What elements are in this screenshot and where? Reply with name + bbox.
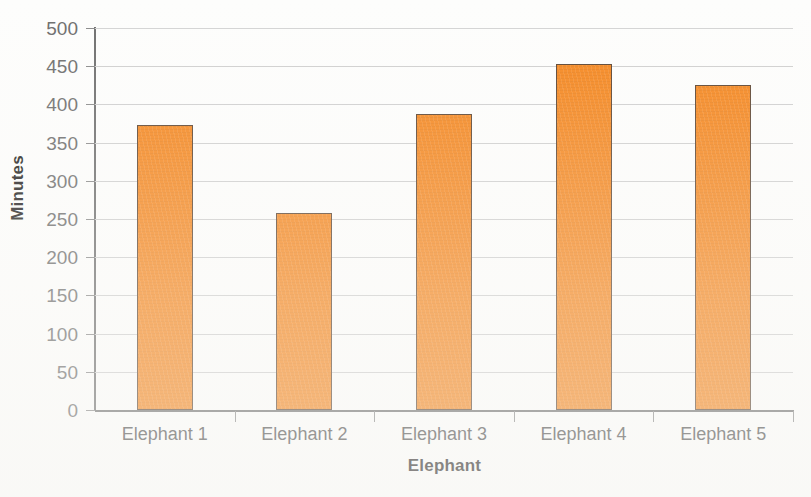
y-axis-tick-label: 150: [0, 286, 86, 305]
y-axis-tick-label: 100: [0, 324, 86, 343]
y-axis-tick-label: 350: [0, 133, 86, 152]
gridline: [95, 104, 793, 105]
x-axis-tick-mark: [653, 411, 654, 422]
y-axis-tick-label: 500: [0, 19, 86, 38]
bar-4: [556, 64, 612, 410]
x-axis-line: [95, 410, 794, 412]
y-axis-tick-mark: [86, 66, 95, 67]
y-axis-tick-label: 450: [0, 57, 86, 76]
x-axis-tick-label: Elephant 4: [541, 424, 627, 445]
y-axis-tick-mark: [86, 181, 95, 182]
y-axis-tick-label: 0: [0, 401, 86, 420]
y-axis-tick-labels: 050100150200250300350400450500: [0, 0, 86, 497]
y-axis-tick-mark: [86, 372, 95, 373]
bar-5: [695, 85, 751, 410]
y-axis-tick-mark: [86, 257, 95, 258]
x-axis-tick-mark: [374, 411, 375, 422]
y-axis-tick-mark: [86, 143, 95, 144]
x-axis-tick-label: Elephant 2: [261, 424, 347, 445]
y-axis-tick-label: 400: [0, 95, 86, 114]
bar-2: [276, 213, 332, 410]
x-axis-tick-label: Elephant 5: [680, 424, 766, 445]
y-axis-tick-mark: [86, 295, 95, 296]
x-axis-tick-mark: [235, 411, 236, 422]
y-axis-tick-mark: [86, 104, 95, 105]
x-axis-tick-mark: [514, 411, 515, 422]
x-axis-tick-label: Elephant 3: [401, 424, 487, 445]
y-axis-tick-label: 250: [0, 210, 86, 229]
bar-1: [137, 125, 193, 410]
y-axis-tick-mark: [86, 28, 95, 29]
x-axis-tick-labels: Elephant 1Elephant 2Elephant 3Elephant 4…: [95, 424, 794, 454]
x-axis-title: Elephant: [95, 456, 794, 476]
x-axis-tick-label: Elephant 1: [122, 424, 208, 445]
y-axis-tick-label: 200: [0, 248, 86, 267]
chart-page: Minutes 050100150200250300350400450500 E…: [0, 0, 811, 497]
y-axis-tick-mark: [86, 219, 95, 220]
y-axis-tick-mark: [86, 334, 95, 335]
x-axis-tick-mark: [793, 411, 794, 422]
plot-area: [95, 28, 793, 410]
y-axis-tick-mark: [86, 410, 95, 411]
bar-3: [416, 114, 472, 410]
y-axis-tick-label: 50: [0, 362, 86, 381]
gridline: [95, 66, 793, 67]
y-axis-tick-label: 300: [0, 171, 86, 190]
gridline: [95, 28, 793, 29]
